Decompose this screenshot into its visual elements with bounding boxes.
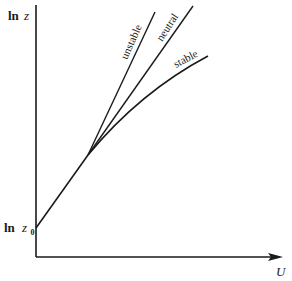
label-neutral: neutral: [154, 11, 181, 43]
y-axis-label: ln z: [8, 8, 29, 23]
x-axis-label: U: [276, 264, 287, 279]
label-stable: stable: [171, 47, 199, 70]
wind-profile-diagram: ln z ln z 0 U unstable neutral stable: [0, 0, 292, 281]
label-unstable: unstable: [118, 22, 144, 60]
log-profile-common: [36, 155, 88, 228]
curve-unstable: [88, 12, 155, 155]
y0-label: ln z 0: [4, 220, 34, 237]
